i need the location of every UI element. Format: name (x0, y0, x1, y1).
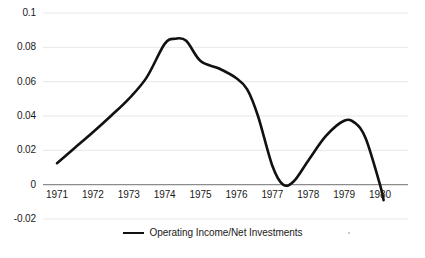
x-axis-tick-label: 1976 (217, 190, 255, 200)
y-axis-tick-label: 0.02 (0, 145, 36, 155)
y-axis-tick-label: 0.08 (0, 42, 36, 52)
x-axis-tick-label: 1977 (253, 190, 291, 200)
legend-line-swatch (123, 232, 144, 234)
legend-item-label: Operating Income/Net Investments (150, 227, 303, 238)
x-axis-tick-label: 1972 (74, 190, 112, 200)
y-axis-tick-label: 0 (0, 180, 36, 190)
x-axis-tick-label: 1973 (110, 190, 148, 200)
x-axis-tick-label: 1971 (38, 190, 76, 200)
x-axis-tick-label: 1979 (325, 190, 363, 200)
chart-legend: Operating Income/Net Investments (0, 227, 425, 238)
series-line (57, 38, 384, 200)
series-operating-income-net-investments (57, 38, 384, 200)
x-axis-tick-label: 1975 (182, 190, 220, 200)
x-axis-tick-label: 1974 (146, 190, 184, 200)
stray-speck-artifact (348, 232, 350, 234)
y-axis-tick-label: 0.06 (0, 77, 36, 87)
y-axis-tick-label: -0.02 (0, 214, 36, 224)
plot-area (0, 0, 425, 258)
y-axis-tick-label: 0.1 (0, 8, 36, 18)
line-chart: 0.10.080.060.040.020-0.02 19711972197319… (0, 0, 425, 258)
x-axis-tick-label: 1978 (289, 190, 327, 200)
y-axis-tick-label: 0.04 (0, 111, 36, 121)
x-axis-tick-label: 1980 (361, 190, 399, 200)
